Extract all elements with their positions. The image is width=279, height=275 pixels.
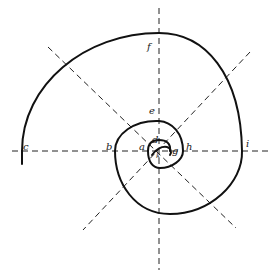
label-f: f	[146, 41, 153, 52]
spiral-curve	[22, 33, 242, 214]
label-c: c	[23, 141, 29, 152]
label-g: g	[172, 145, 178, 156]
label-e: e	[149, 105, 155, 116]
label-i: i	[246, 138, 249, 149]
spiral-diagram: a b c d e f g h i k	[0, 0, 279, 275]
label-h: h	[186, 141, 192, 152]
construction-axes	[12, 8, 270, 270]
label-d: d	[152, 134, 158, 145]
diagonal-axis-nw-se	[48, 47, 236, 228]
label-a: a	[139, 141, 145, 152]
label-b: b	[106, 141, 112, 152]
label-k: k	[156, 152, 160, 160]
